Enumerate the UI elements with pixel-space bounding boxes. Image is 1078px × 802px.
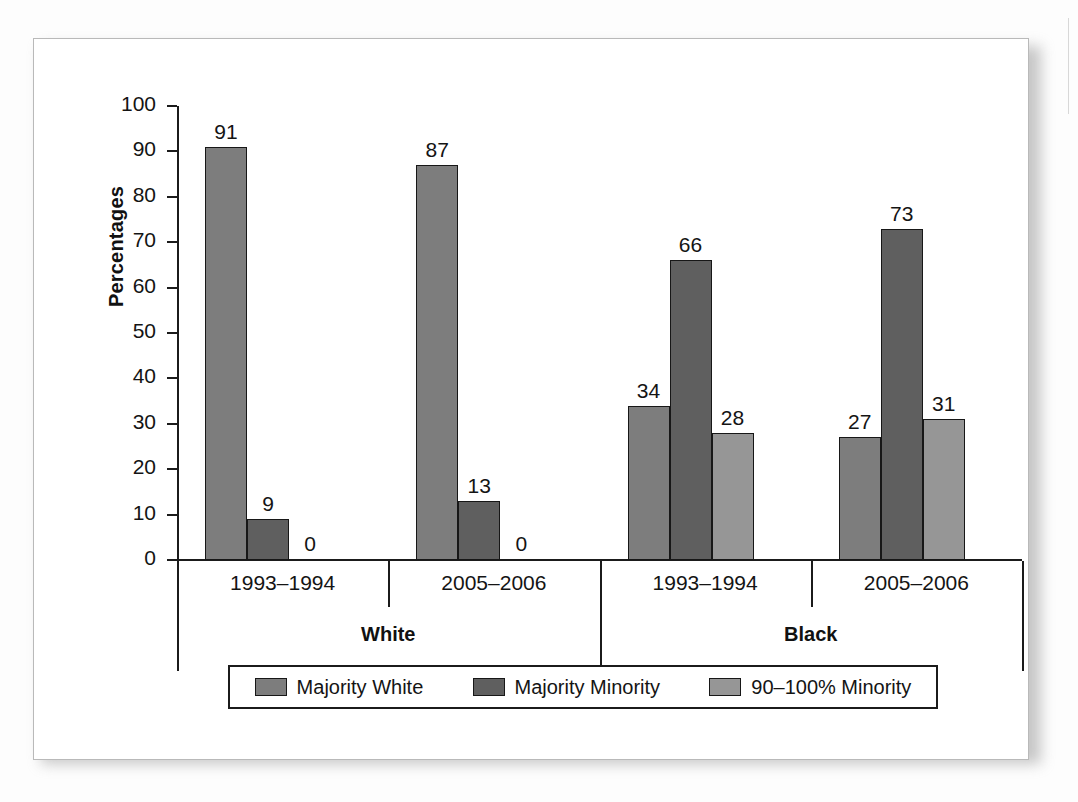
y-axis-tick-label: 90 bbox=[86, 137, 156, 161]
y-axis-tick bbox=[167, 196, 177, 198]
y-axis-tick-label: 80 bbox=[86, 183, 156, 207]
legend-item: 90–100% Minority bbox=[709, 676, 911, 699]
y-axis-tick-label: 20 bbox=[86, 455, 156, 479]
bar-value-label: 28 bbox=[721, 406, 744, 430]
y-axis-tick-label: 70 bbox=[86, 228, 156, 252]
bar-value-label: 66 bbox=[679, 233, 702, 257]
bar-value-label: 91 bbox=[214, 120, 237, 144]
bar-value-label: 13 bbox=[468, 474, 491, 498]
bar: 66 bbox=[670, 260, 712, 560]
y-axis-tick bbox=[167, 468, 177, 470]
y-axis-tick bbox=[167, 332, 177, 334]
y-axis-tick-label: 100 bbox=[86, 92, 156, 116]
legend-swatch bbox=[709, 678, 741, 696]
page-edge-artifact bbox=[1068, 18, 1069, 114]
bar-value-label: 0 bbox=[515, 532, 527, 556]
y-axis-tick bbox=[167, 514, 177, 516]
figure-panel: Percentages 1009080706050403020100 91908… bbox=[33, 38, 1029, 760]
y-axis-tick bbox=[167, 423, 177, 425]
period-separator bbox=[1022, 561, 1024, 671]
y-axis-tick-label: 10 bbox=[86, 501, 156, 525]
period-label: 2005–2006 bbox=[811, 571, 1022, 595]
bar: 27 bbox=[839, 437, 881, 560]
y-axis-tick-label: 30 bbox=[86, 410, 156, 434]
legend-item: Majority Minority bbox=[473, 676, 661, 699]
y-axis-tick bbox=[167, 377, 177, 379]
chart-legend: Majority WhiteMajority Minority90–100% M… bbox=[228, 665, 938, 709]
bar-value-label: 34 bbox=[637, 379, 660, 403]
legend-label: Majority White bbox=[297, 676, 424, 699]
legend-label: Majority Minority bbox=[515, 676, 661, 699]
bar: 28 bbox=[712, 433, 754, 560]
bar-value-label: 87 bbox=[426, 138, 449, 162]
bar: 87 bbox=[416, 165, 458, 560]
bar-value-label: 0 bbox=[304, 532, 316, 556]
y-axis-tick bbox=[167, 287, 177, 289]
legend-swatch bbox=[473, 678, 505, 696]
bar: 9 bbox=[247, 519, 289, 560]
bar-value-label: 73 bbox=[890, 202, 913, 226]
bars-layer: 919087130346628277331 bbox=[177, 106, 1022, 560]
y-axis-tick bbox=[167, 105, 177, 107]
bar-value-label: 27 bbox=[848, 410, 871, 434]
bar-value-label: 9 bbox=[262, 492, 274, 516]
legend-item: Majority White bbox=[255, 676, 424, 699]
scanned-page: Percentages 1009080706050403020100 91908… bbox=[0, 0, 1078, 802]
group-label: Black bbox=[600, 623, 1023, 646]
y-axis-tick bbox=[167, 241, 177, 243]
legend-label: 90–100% Minority bbox=[751, 676, 911, 699]
category-axis: 1993–19942005–20061993–19942005–2006Whit… bbox=[177, 561, 1022, 681]
y-axis-tick-label: 60 bbox=[86, 274, 156, 298]
bar: 31 bbox=[923, 419, 965, 560]
bar-value-label: 31 bbox=[932, 392, 955, 416]
y-axis-tick bbox=[167, 559, 177, 561]
bar: 13 bbox=[458, 501, 500, 560]
y-axis-tick bbox=[167, 150, 177, 152]
bar: 91 bbox=[205, 147, 247, 560]
y-axis-tick-label: 0 bbox=[86, 546, 156, 570]
plot-area: Percentages 1009080706050403020100 91908… bbox=[34, 39, 1028, 759]
bar: 73 bbox=[881, 229, 923, 560]
bar: 34 bbox=[628, 406, 670, 560]
period-label: 2005–2006 bbox=[388, 571, 599, 595]
group-label: White bbox=[177, 623, 600, 646]
y-axis-tick-label: 50 bbox=[86, 319, 156, 343]
y-axis-tick-label: 40 bbox=[86, 364, 156, 388]
period-label: 1993–1994 bbox=[600, 571, 811, 595]
period-label: 1993–1994 bbox=[177, 571, 388, 595]
legend-swatch bbox=[255, 678, 287, 696]
